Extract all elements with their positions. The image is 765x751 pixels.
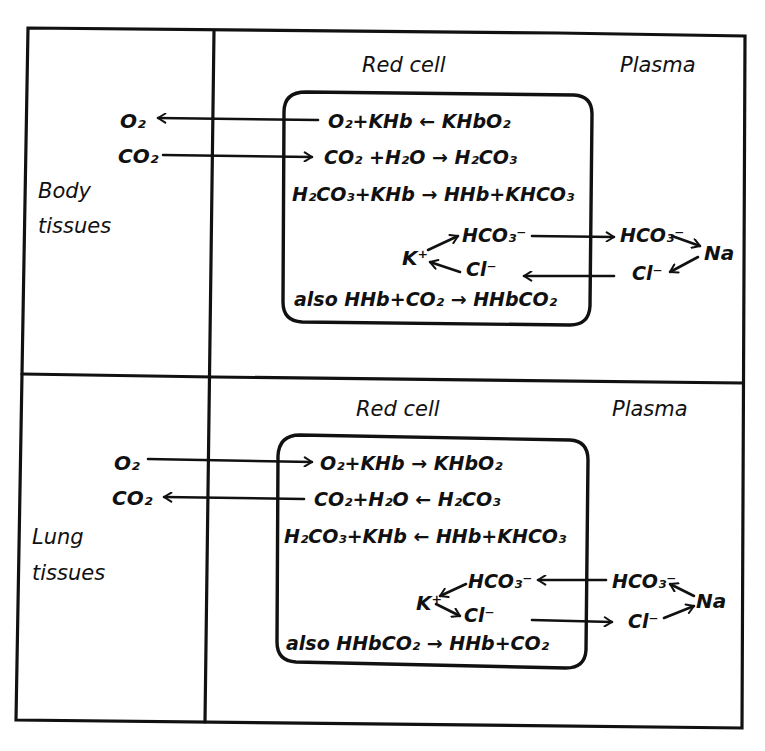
- gas-o2: O₂: [114, 451, 140, 475]
- ion-hco3-cell: HCO₃⁻: [468, 570, 532, 592]
- equation-3: H₂CO₃+KHb → HHb+KHCO₃: [292, 183, 575, 205]
- gas-co2: CO₂: [112, 486, 153, 510]
- ion-hco3-plasma: HCO₃⁻: [612, 570, 676, 592]
- also-equation: also HHbCO₂ → HHb+CO₂: [286, 632, 550, 654]
- cl-to-k-arrow: [430, 262, 460, 272]
- hco3-to-k-arrow: [440, 584, 466, 596]
- ion-cl-plasma: Cl⁻: [632, 262, 663, 284]
- equation-2: CO₂+H₂O ← H₂CO₃: [314, 488, 501, 510]
- hco3-out-arrow: [532, 236, 614, 237]
- ion-hco3-cell: HCO₃⁻: [462, 224, 526, 246]
- side-label-line2: tissues: [32, 561, 105, 585]
- cl-out-arrow: [532, 620, 612, 622]
- horizontal-divider: [22, 374, 742, 383]
- ion-na: Na: [696, 589, 726, 613]
- gas-o2: O₂: [120, 109, 146, 133]
- ion-hco3-plasma: HCO₃⁻: [620, 224, 684, 246]
- equation-2: CO₂ +H₂O → H₂CO₃: [324, 146, 518, 168]
- ion-na: Na: [704, 241, 734, 265]
- o2-release-arrow: [158, 118, 318, 120]
- na-to-cl-arrow: [670, 257, 698, 272]
- also-equation: also HHb+CO₂ → HHbCO₂: [294, 288, 558, 310]
- gas-co2: CO₂: [118, 144, 159, 168]
- ion-cl-plasma: Cl⁻: [628, 610, 659, 632]
- col-header-plasma: Plasma: [620, 53, 696, 77]
- section-lung-tissues: Red cell Plasma Lung tissues O₂ CO₂ O₂+K…: [32, 397, 726, 668]
- equation-3: H₂CO₃+KHb ← HHb+KHCO₃: [284, 525, 567, 547]
- ion-k: K⁺: [416, 591, 442, 615]
- o2-uptake-arrow: [148, 459, 312, 462]
- col-header-plasma: Plasma: [612, 397, 688, 421]
- chloride-shift-diagram: Red cell Plasma Body tissues O₂ CO₂ O₂+K…: [0, 0, 765, 751]
- side-label-line1: Lung: [32, 525, 84, 549]
- ion-cl-cell: Cl⁻: [466, 258, 497, 280]
- col-header-red-cell: Red cell: [356, 397, 440, 421]
- section-body-tissues: Red cell Plasma Body tissues O₂ CO₂ O₂+K…: [38, 53, 734, 325]
- cl-to-na-arrow: [664, 606, 694, 618]
- co2-uptake-arrow: [163, 155, 312, 157]
- equation-1: O₂+KHb → KHbO₂: [320, 452, 503, 474]
- co2-release-arrow: [164, 497, 304, 499]
- ion-cl-cell: Cl⁻: [464, 604, 495, 626]
- col-header-red-cell: Red cell: [362, 53, 446, 77]
- k-to-hco3-arrow: [428, 236, 458, 250]
- ion-k: K⁺: [402, 246, 428, 270]
- equation-1: O₂+KHb ← KHbO₂: [328, 110, 511, 132]
- side-label-line1: Body: [38, 179, 92, 203]
- side-label-line2: tissues: [38, 214, 111, 238]
